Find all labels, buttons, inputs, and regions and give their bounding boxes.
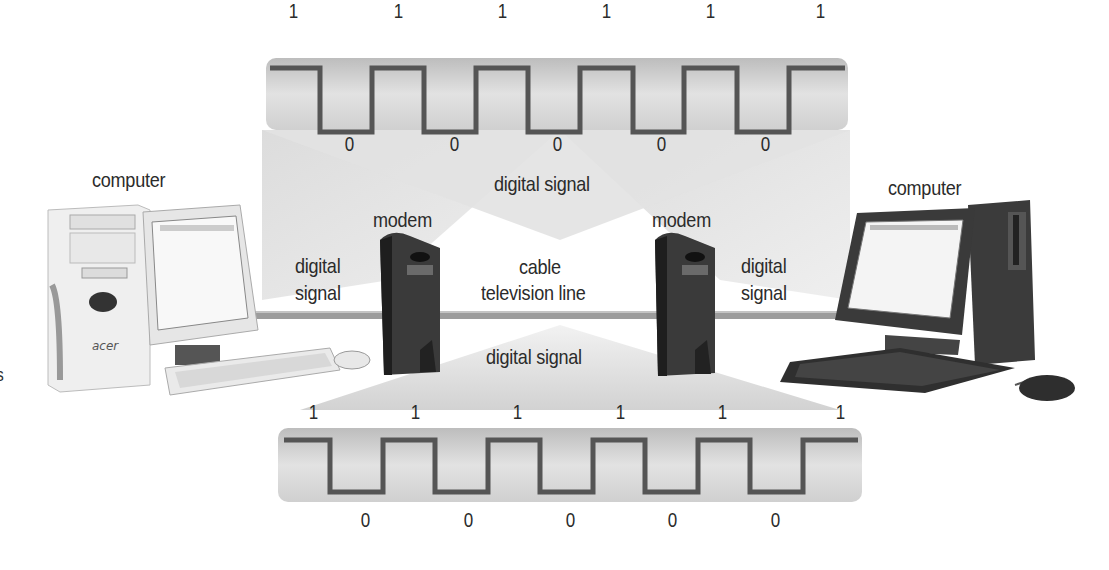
acer-logo: acer — [92, 339, 119, 353]
top-bit-high: 1 — [706, 0, 715, 23]
right-modem-label: modem — [652, 208, 711, 231]
bottom-bit-high: 1 — [309, 401, 318, 424]
top-bit-low: 0 — [345, 133, 354, 156]
top-bit-low: 0 — [761, 133, 770, 156]
bottom-bit-high: 1 — [616, 401, 625, 424]
right-computer-label: computer — [888, 176, 961, 199]
edge-text-fragment: s — [0, 364, 3, 387]
bottom-bit-high: 1 — [836, 401, 845, 424]
left-digital-signal-label-line1: digital — [295, 254, 340, 277]
right-digital-signal-label-line2: signal — [741, 281, 787, 304]
bottom-bit-high: 1 — [513, 401, 522, 424]
bottom-bit-high: 1 — [411, 401, 420, 424]
left-modem-label: modem — [373, 208, 432, 231]
bottom-bit-high: 1 — [718, 401, 727, 424]
bottom-digital-signal-label: digital signal — [486, 345, 582, 368]
top-bit-low: 0 — [553, 133, 562, 156]
top-bit-high: 1 — [602, 0, 611, 23]
top-bit-high: 1 — [394, 0, 403, 23]
top-bit-high: 1 — [289, 0, 298, 23]
top-signal-band — [266, 58, 848, 130]
top-bit-high: 1 — [816, 0, 825, 23]
left-digital-signal-label-line2: signal — [295, 281, 341, 304]
left-modem — [380, 233, 440, 375]
top-bit-low: 0 — [657, 133, 666, 156]
bottom-bit-low: 0 — [464, 509, 473, 532]
top-bit-low: 0 — [450, 133, 459, 156]
cable-label-line1: cable — [519, 255, 561, 278]
bottom-bit-low: 0 — [566, 509, 575, 532]
right-modem — [655, 233, 715, 376]
top-bit-high: 1 — [498, 0, 507, 23]
left-computer-label: computer — [92, 168, 165, 191]
top-digital-signal-label: digital signal — [494, 172, 590, 195]
cable-label-line2: television line — [481, 281, 586, 304]
bottom-bit-low: 0 — [361, 509, 370, 532]
right-digital-signal-label-line1: digital — [741, 254, 786, 277]
bottom-bit-low: 0 — [668, 509, 677, 532]
bottom-bit-low: 0 — [771, 509, 780, 532]
